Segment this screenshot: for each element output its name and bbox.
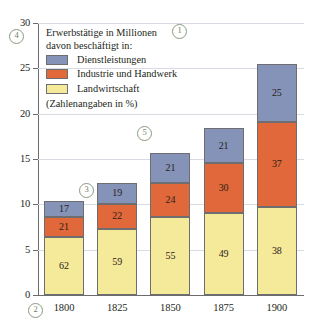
legend-item-label: Industrie und Handwerk xyxy=(77,68,177,80)
bar-segment[interactable]: 17 xyxy=(44,201,84,217)
y-axis-tick-label: 5 xyxy=(4,245,30,255)
bar-segment-value: 17 xyxy=(59,204,69,214)
legend-item[interactable]: Industrie und Handwerk xyxy=(46,67,198,82)
legend-note: (Zahlenangaben in %) xyxy=(46,97,198,111)
annotation-marker[interactable]: 3 xyxy=(79,183,94,198)
bar-segment[interactable]: 21 xyxy=(44,217,84,237)
legend-item-label: Dienstleistungen xyxy=(77,54,146,66)
bar-segment-value: 49 xyxy=(219,249,229,259)
bar-segment[interactable]: 25 xyxy=(257,64,297,122)
legend-items: DienstleistungenIndustrie und HandwerkLa… xyxy=(46,52,198,96)
bar-segment-value: 25 xyxy=(272,88,282,98)
annotation-marker[interactable]: 1 xyxy=(172,24,187,39)
bar-segment-value: 38 xyxy=(272,246,282,256)
bar-segment-value: 21 xyxy=(219,141,229,151)
bar-segment[interactable]: 30 xyxy=(204,163,244,213)
bar-segment-value: 30 xyxy=(219,183,229,193)
bar-group[interactable]: 493021 xyxy=(204,128,244,295)
y-axis-tick-mark xyxy=(33,295,38,296)
x-axis-tick-label: 1850 xyxy=(142,302,198,313)
annotation-marker[interactable]: 5 xyxy=(137,126,152,141)
chart-legend: Erwerbstätige in Millionen davon beschäf… xyxy=(46,26,198,110)
bar-segment[interactable]: 59 xyxy=(97,229,137,295)
legend-swatch xyxy=(46,84,68,94)
legend-item[interactable]: Landwirtschaft xyxy=(46,81,198,96)
stacked-bar-chart: 051015202530 622117592219552421493021383… xyxy=(0,0,312,327)
bar-group[interactable]: 383725 xyxy=(257,64,297,295)
bar-group[interactable]: 622117 xyxy=(44,201,84,295)
bar-segment[interactable]: 55 xyxy=(150,217,190,295)
bar-segment-value: 55 xyxy=(165,251,175,261)
bar-group[interactable]: 552421 xyxy=(150,153,190,295)
bar-segment-value: 37 xyxy=(272,159,282,169)
x-axis-tick-label: 1900 xyxy=(249,302,305,313)
bar-segment[interactable]: 38 xyxy=(257,207,297,295)
y-axis-tick-label: 15 xyxy=(4,154,30,164)
y-axis-tick-label: 25 xyxy=(4,63,30,73)
y-axis-tick-label: 10 xyxy=(4,199,30,209)
legend-item-label: Landwirtschaft xyxy=(77,83,139,95)
y-axis-tick-label: 30 xyxy=(4,18,30,28)
annotation-marker[interactable]: 2 xyxy=(28,303,43,318)
legend-subtitle: davon beschäftigt in: xyxy=(46,39,198,52)
y-axis-tick-label: 20 xyxy=(4,109,30,119)
bar-segment-value: 22 xyxy=(112,211,122,221)
bar-segment[interactable]: 49 xyxy=(204,213,244,295)
legend-swatch xyxy=(46,69,68,79)
bar-group[interactable]: 592219 xyxy=(97,183,137,295)
bar-segment[interactable]: 24 xyxy=(150,183,190,217)
bar-segment[interactable]: 22 xyxy=(97,204,137,229)
bar-segment-value: 21 xyxy=(165,163,175,173)
bar-segment[interactable]: 19 xyxy=(97,183,137,204)
bar-segment[interactable]: 21 xyxy=(204,128,244,163)
bar-segment-value: 19 xyxy=(112,188,122,198)
annotation-marker[interactable]: 4 xyxy=(9,29,24,44)
legend-item[interactable]: Dienstleistungen xyxy=(46,52,198,67)
x-axis-tick-label: 1825 xyxy=(89,302,145,313)
x-axis-tick-label: 1800 xyxy=(36,302,92,313)
bar-segment-value: 59 xyxy=(112,257,122,267)
bar-segment[interactable]: 62 xyxy=(44,237,84,295)
bar-segment[interactable]: 21 xyxy=(150,153,190,183)
bar-segment[interactable]: 37 xyxy=(257,122,297,208)
gridline xyxy=(38,295,304,296)
bar-segment-value: 62 xyxy=(59,261,69,271)
bar-segment-value: 21 xyxy=(59,222,69,232)
y-axis-tick-label: 0 xyxy=(4,290,30,300)
legend-swatch xyxy=(46,55,68,65)
x-axis-tick-label: 1875 xyxy=(196,302,252,313)
bar-segment-value: 24 xyxy=(165,195,175,205)
